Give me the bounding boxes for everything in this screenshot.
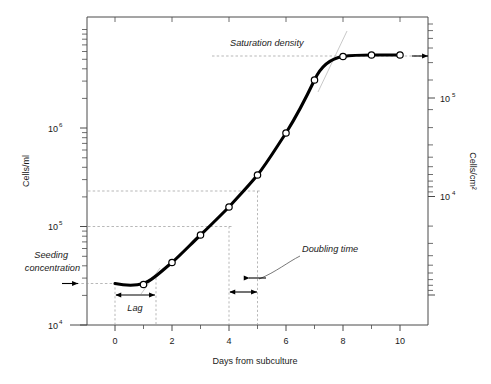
bottom-axis-title: Days from subculture [212,356,297,366]
x-tick-label-0: 0 [112,336,117,346]
data-point-day1 [140,281,146,287]
saturation-density-label: Saturation density [230,38,305,48]
x-tick-label-8: 8 [340,336,345,346]
data-point-day5 [254,172,260,178]
data-point-day6 [283,130,289,136]
data-point-day3 [197,232,203,238]
right-tick-label-1e4: 10 [440,192,450,202]
growth-curve-chart: 10 4 10 5 10 6 [0,0,491,384]
top-axis-ticks [115,17,400,22]
doubling-time-leader [259,256,300,279]
left-tick-exp-1e4: 4 [59,318,63,325]
data-markers [140,52,403,288]
right-tick-labels: 10 5 10 4 [440,91,456,203]
left-tick-exp-1e6: 6 [59,121,63,128]
right-tick-label-1e5: 10 [440,94,450,104]
x-tick-labels: 0 2 4 6 8 10 [112,336,405,346]
right-axis-ticks [428,24,435,295]
data-point-day10 [397,52,403,58]
doubling-time-label: Doubling time [302,244,358,254]
x-tick-label-10: 10 [395,336,405,346]
right-axis-title: Cells/cm² [468,152,478,190]
left-axis-title: Cells/ml [21,155,31,187]
x-axis-ticks [115,325,400,331]
seeding-concentration-label-line1: Seeding [34,250,69,260]
right-tick-exp-1e4: 4 [452,189,456,196]
x-tick-label-6: 6 [283,336,288,346]
left-tick-exp-1e5: 5 [59,219,63,226]
lag-label: Lag [127,303,143,313]
data-point-day2 [169,259,175,265]
left-tick-labels: 10 4 10 5 10 6 [48,121,63,331]
seeding-concentration-label-line2: concentration [25,263,80,273]
left-tick-label-1e4: 10 [48,321,58,331]
right-tick-exp-1e5: 5 [452,91,456,98]
left-axis-ticks [80,30,87,326]
left-tick-label-1e6: 10 [48,124,58,134]
left-tick-label-1e5: 10 [48,222,58,232]
data-point-day4 [226,204,232,210]
figure-container: 10 4 10 5 10 6 [0,0,491,384]
data-point-day7 [311,77,317,83]
data-point-day9 [368,52,374,58]
data-point-day8 [340,53,346,59]
x-tick-label-2: 2 [169,336,174,346]
x-tick-label-4: 4 [226,336,231,346]
